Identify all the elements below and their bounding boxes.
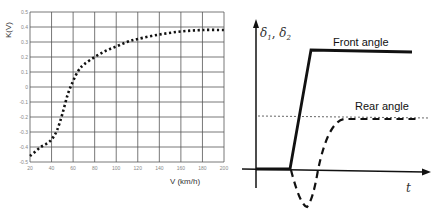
y-tick-label: -0.4 bbox=[19, 144, 28, 150]
y-tick-label: 0.2 bbox=[21, 54, 28, 60]
y-tick-label: 0.5 bbox=[21, 9, 28, 15]
x-tick-label: 100 bbox=[112, 165, 121, 171]
y-tick-label: 0.1 bbox=[21, 69, 28, 75]
y-tick-labels: 0.50.40.30.20.10-0.1-0.2-0.3-0.4-0.5 bbox=[19, 9, 28, 165]
y-tick-label: 0.3 bbox=[21, 39, 28, 45]
y-tick-label: 0 bbox=[25, 84, 28, 90]
x-tick-label: 60 bbox=[70, 165, 76, 171]
x-tick-label: 20 bbox=[27, 165, 33, 171]
rear-angle-label: Rear angle bbox=[355, 100, 409, 112]
y-tick-label: 0.4 bbox=[21, 24, 28, 30]
k-vs-speed-chart: 0.50.40.30.20.10-0.1-0.2-0.3-0.4-0.5 204… bbox=[0, 0, 240, 214]
y-tick-label: -0.2 bbox=[19, 114, 28, 120]
rear-angle-line bbox=[291, 119, 420, 207]
x-tick-label: 160 bbox=[177, 165, 186, 171]
x-tick-label: 200 bbox=[220, 165, 229, 171]
y-tick-label: -0.3 bbox=[19, 129, 28, 135]
y-axis-arrow-icon bbox=[253, 19, 259, 28]
x-tick-label: 80 bbox=[92, 165, 98, 171]
y-axis-label: δ1, δ2 bbox=[260, 26, 292, 42]
k-curve-dotted bbox=[30, 30, 224, 156]
k-curve-path bbox=[30, 30, 224, 156]
grid-lines bbox=[30, 12, 224, 162]
y-axis-label: K(V) bbox=[4, 22, 13, 38]
y-tick-label: -0.1 bbox=[19, 99, 28, 105]
front-angle-line bbox=[256, 50, 412, 169]
rear-reference-line bbox=[258, 116, 430, 118]
x-tick-label: 140 bbox=[155, 165, 164, 171]
x-axis-arrow-icon bbox=[422, 169, 431, 176]
x-tick-label: 120 bbox=[134, 165, 143, 171]
x-axis-label: V (km/h) bbox=[170, 177, 201, 186]
x-tick-label: 40 bbox=[49, 165, 55, 171]
x-tick-label: 180 bbox=[198, 165, 207, 171]
x-tick-labels: 20406080100120140160180200 bbox=[27, 165, 228, 171]
x-axis bbox=[242, 169, 425, 172]
x-axis-label: t bbox=[406, 181, 411, 195]
front-angle-label: Front angle bbox=[333, 36, 389, 48]
